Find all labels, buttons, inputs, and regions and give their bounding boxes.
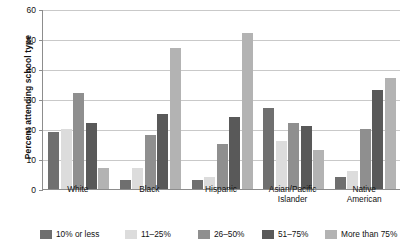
bar	[360, 129, 371, 189]
legend-item[interactable]: More than 75%	[325, 229, 397, 239]
x-axis-category-label: Asian/Pacific Islander	[257, 184, 329, 204]
legend-item[interactable]: 11–25%	[125, 229, 171, 239]
plot-area	[42, 10, 400, 190]
x-axis-category-label: Hispanic	[185, 184, 257, 194]
bar	[263, 108, 274, 189]
legend-swatch-icon	[40, 230, 52, 239]
bar	[73, 93, 84, 189]
y-axis-tick-label: 40	[27, 65, 36, 75]
bar	[170, 48, 181, 189]
legend-label: 51–75%	[278, 229, 308, 239]
bar	[242, 33, 253, 189]
y-axis-tick-label: 60	[27, 5, 36, 15]
legend-item[interactable]: 26–50%	[198, 229, 244, 239]
y-axis-tick-label: 10	[27, 155, 36, 165]
y-axis-tick-label: 50	[27, 35, 36, 45]
bar-chart: Percent attending school type 0102030405…	[0, 0, 406, 250]
bar	[48, 132, 59, 189]
bar-group	[48, 10, 109, 189]
legend-swatch-icon	[325, 230, 337, 239]
legend-swatch-icon	[125, 230, 137, 239]
bar	[301, 126, 312, 189]
bar	[217, 144, 228, 189]
y-axis-tick-label: 20	[27, 125, 36, 135]
legend-label: 26–50%	[214, 229, 244, 239]
bar	[229, 117, 240, 189]
y-axis-tick	[39, 10, 43, 11]
bar	[276, 141, 287, 189]
bar	[61, 129, 72, 189]
legend-swatch-icon	[198, 230, 210, 239]
legend-label: More than 75%	[341, 229, 397, 239]
bar-group	[192, 10, 253, 189]
bar	[288, 123, 299, 189]
y-axis-tick	[39, 100, 43, 101]
y-axis-tick-labels: 0102030405060	[0, 10, 36, 190]
bar-group	[263, 10, 324, 189]
bar	[157, 114, 168, 189]
x-axis-category-label: Black	[114, 184, 186, 194]
y-axis-tick	[39, 130, 43, 131]
legend-label: 10% or less	[56, 229, 99, 239]
y-axis-tick	[39, 160, 43, 161]
y-axis-tick-label: 0	[31, 185, 36, 195]
legend-swatch-icon	[262, 230, 274, 239]
bar	[145, 135, 156, 189]
legend-item[interactable]: 10% or less	[40, 229, 99, 239]
y-axis-tick	[39, 70, 43, 71]
bar-group	[335, 10, 396, 189]
bar	[86, 123, 97, 189]
x-axis-category-label: Native American	[328, 184, 400, 204]
y-axis-tick-label: 30	[27, 95, 36, 105]
y-axis-tick	[39, 40, 43, 41]
bar	[372, 90, 383, 189]
legend-item[interactable]: 51–75%	[262, 229, 308, 239]
bar	[385, 78, 396, 189]
x-axis-category-label: White	[42, 184, 114, 194]
bar-group	[120, 10, 181, 189]
legend-label: 11–25%	[141, 229, 171, 239]
chart-legend: 10% or less11–25%26–50%51–75%More than 7…	[0, 226, 406, 242]
